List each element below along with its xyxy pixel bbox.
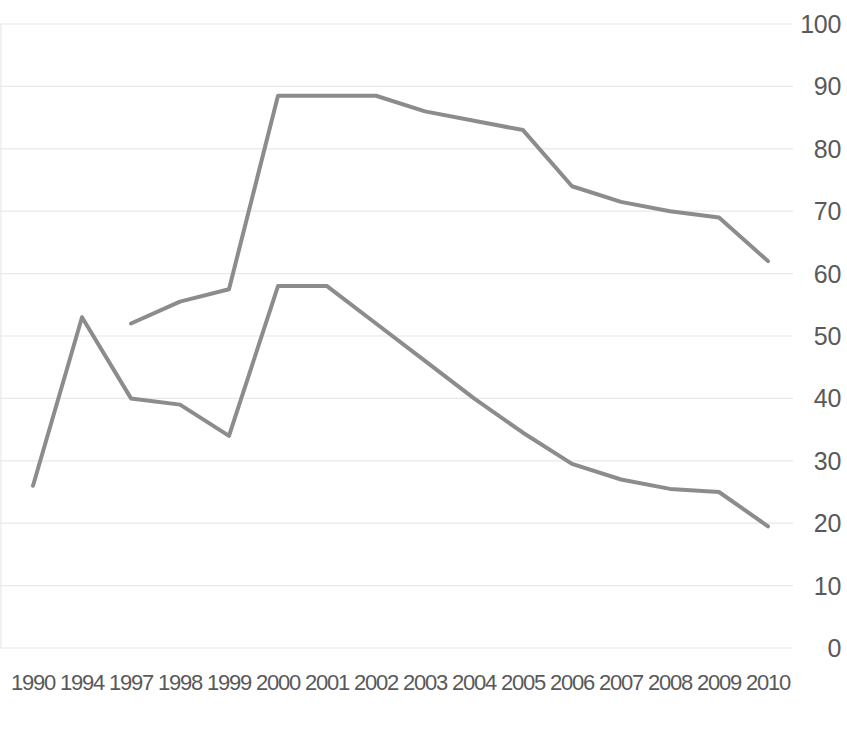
x-axis-tick-label: 2000 bbox=[256, 672, 300, 694]
y-axis-tick-label: 40 bbox=[814, 386, 841, 411]
chart-svg bbox=[0, 0, 793, 680]
x-axis-tick-label: 2003 bbox=[403, 672, 447, 694]
x-axis-tick-label: 2002 bbox=[354, 672, 398, 694]
y-axis-tick-label: 30 bbox=[814, 448, 841, 473]
y-axis-tick-label: 90 bbox=[814, 74, 841, 99]
x-axis: 1990199419971998199920002001200220032004… bbox=[0, 660, 793, 708]
x-axis-tick-label: 2008 bbox=[648, 672, 692, 694]
x-axis-tick-label: 1990 bbox=[11, 672, 55, 694]
x-axis-tick-label: 1998 bbox=[158, 672, 202, 694]
y-axis-tick-label: 20 bbox=[814, 511, 841, 536]
x-axis-tick-label: 1997 bbox=[109, 672, 153, 694]
y-axis-tick-label: 70 bbox=[814, 199, 841, 224]
x-axis-tick-label: 2010 bbox=[746, 672, 790, 694]
series-line-2 bbox=[131, 96, 768, 324]
y-axis-tick-label: 60 bbox=[814, 261, 841, 286]
chart-container: 0102030405060708090100 19901994199719981… bbox=[0, 0, 847, 744]
series-line-1 bbox=[33, 286, 768, 526]
y-axis-tick-label: 100 bbox=[800, 12, 841, 37]
x-axis-tick-label: 2001 bbox=[305, 672, 349, 694]
gridlines bbox=[0, 24, 793, 648]
x-axis-tick-label: 2004 bbox=[452, 672, 496, 694]
x-axis-tick-label: 1999 bbox=[207, 672, 251, 694]
x-axis-tick-label: 2006 bbox=[550, 672, 594, 694]
y-axis: 0102030405060708090100 bbox=[793, 0, 847, 680]
y-axis-tick-label: 10 bbox=[814, 573, 841, 598]
series-lines bbox=[33, 96, 768, 527]
y-axis-tick-label: 80 bbox=[814, 136, 841, 161]
y-axis-tick-label: 0 bbox=[827, 636, 841, 661]
x-axis-tick-label: 2007 bbox=[599, 672, 643, 694]
plot-area bbox=[0, 0, 793, 680]
x-axis-tick-label: 1994 bbox=[60, 672, 104, 694]
x-axis-tick-label: 2005 bbox=[501, 672, 545, 694]
y-axis-tick-label: 50 bbox=[814, 324, 841, 349]
x-axis-tick-label: 2009 bbox=[697, 672, 741, 694]
